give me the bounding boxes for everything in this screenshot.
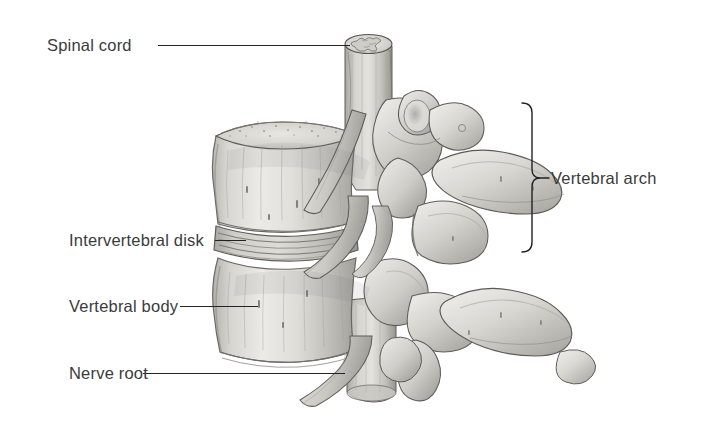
spinal-cord-structure <box>345 35 392 191</box>
vertebral-body-upper <box>212 121 358 232</box>
vertebrae-illustration <box>0 0 707 422</box>
leader-line-intervertebral-disk <box>215 240 246 241</box>
leader-line-vertebral-body <box>180 306 258 307</box>
leader-line-nerve-root <box>143 373 345 374</box>
anatomy-figure: Spinal cord Intervertebral disk Vertebra… <box>0 0 707 422</box>
vertebral-body-lower <box>213 258 356 367</box>
facet-joint-region <box>412 201 488 264</box>
label-intervertebral-disk: Intervertebral disk <box>69 232 204 249</box>
intervertebral-disk-structure <box>214 226 358 261</box>
vertebral-arch-bracket <box>516 95 556 260</box>
label-vertebral-arch: Vertebral arch <box>551 170 657 187</box>
label-vertebral-body: Vertebral body <box>69 298 178 315</box>
leader-line-spinal-cord <box>158 45 350 46</box>
spinal-cord-lower <box>347 296 396 402</box>
vertebral-arch-lower <box>364 259 596 401</box>
nerve-root-structure <box>300 110 422 406</box>
label-spinal-cord: Spinal cord <box>47 37 132 54</box>
shading-texture <box>228 143 370 306</box>
label-nerve-root: Nerve root <box>69 365 148 382</box>
